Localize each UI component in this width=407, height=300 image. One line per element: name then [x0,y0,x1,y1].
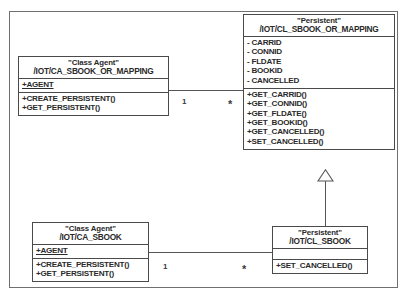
class-operation: +GET_CANCELLED() [246,128,392,137]
association-line-top [169,90,244,91]
class-attribute: - CONNID [246,48,392,57]
class-operation: +CREATE_PERSISTENT() [21,94,166,103]
multiplicity-top-target: * [228,101,232,107]
class-attribute: - CANCELLED [246,76,392,85]
class-attribute: +AGENT [21,80,166,89]
class-name: /IOT/CL_SBOOK_OR_MAPPING [246,25,392,33]
class-operations-ca-sbook-or-mapping: +CREATE_PERSISTENT() +GET_PERSISTENT() [19,92,168,115]
class-operations-cl-sbook-or-mapping: +GET_CARRID() +GET_CONNID() +GET_FLDATE(… [244,88,394,149]
class-operation: +SET_CANCELLED() [246,137,392,146]
class-box-ca-sbook[interactable]: "Class Agent" /IOT/CA_SBOOK +AGENT +CREA… [32,222,149,282]
class-header-cl-sbook-or-mapping: "Persistent" /IOT/CL_SBOOK_OR_MAPPING [244,15,394,36]
class-name: /IOT/CA_SBOOK [35,233,146,241]
class-box-cl-sbook-or-mapping[interactable]: "Persistent" /IOT/CL_SBOOK_OR_MAPPING - … [243,14,395,150]
class-operations-cl-sbook: +SET_CANCELLED() [273,259,367,273]
class-attribute: - BOOKID [246,67,392,76]
class-attribute: - CARRID [246,38,392,47]
class-attributes-cl-sbook-or-mapping: - CARRID - CONNID - FLDATE - BOOKID - CA… [244,36,394,88]
association-line-bottom [149,252,273,253]
class-attribute: +AGENT [35,246,146,255]
generalization-triangle-icon [317,168,334,186]
multiplicity-top-source: 1 [182,97,186,106]
class-operation: +GET_BOOKID() [246,118,392,127]
class-operation: +CREATE_PERSISTENT() [35,260,146,269]
class-operations-ca-sbook: +CREATE_PERSISTENT() +GET_PERSISTENT() [33,258,148,281]
class-operation: +GET_CARRID() [246,90,392,99]
multiplicity-bottom-target: * [242,266,246,272]
uml-class-diagram: 1 * 1 * "Persistent" /IOT/CL_SBOOK_OR_MA… [0,0,407,300]
class-operation: +SET_CANCELLED() [275,261,365,270]
class-header-ca-sbook-or-mapping: "Class Agent" /IOT/CA_SBOOK_OR_MAPPING [19,57,168,78]
class-operation: +GET_CONNID() [246,100,392,109]
class-box-cl-sbook[interactable]: "Persistent" /IOT/CL_SBOOK +SET_CANCELLE… [272,226,368,274]
class-name: /IOT/CA_SBOOK_OR_MAPPING [21,67,166,75]
class-attributes-cl-sbook [273,248,367,259]
class-header-ca-sbook: "Class Agent" /IOT/CA_SBOOK [33,223,148,244]
class-box-ca-sbook-or-mapping[interactable]: "Class Agent" /IOT/CA_SBOOK_OR_MAPPING +… [18,56,169,116]
multiplicity-bottom-source: 1 [163,262,167,271]
class-attributes-ca-sbook: +AGENT [33,244,148,258]
class-header-cl-sbook: "Persistent" /IOT/CL_SBOOK [273,227,367,248]
generalization-line [325,180,326,226]
class-operation: +GET_PERSISTENT() [21,104,166,113]
class-attributes-ca-sbook-or-mapping: +AGENT [19,78,168,92]
class-attribute: - FLDATE [246,57,392,66]
class-operation: +GET_PERSISTENT() [35,270,146,279]
class-operation: +GET_FLDATE() [246,109,392,118]
class-name: /IOT/CL_SBOOK [275,237,365,245]
